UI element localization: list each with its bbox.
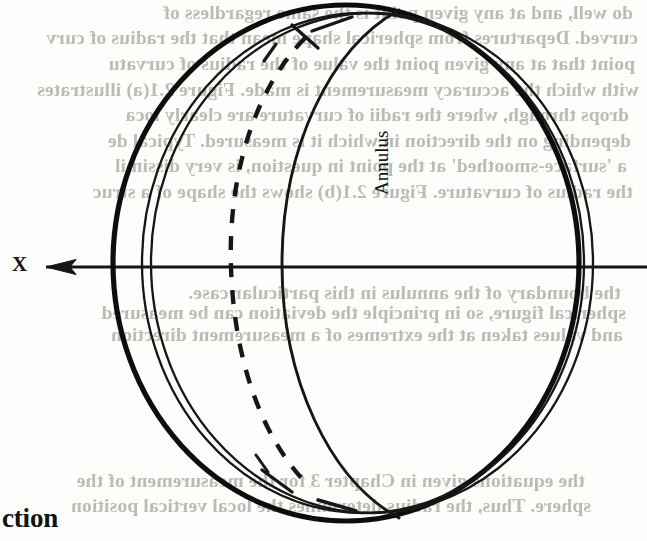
annulus-band <box>142 13 593 513</box>
sphere-annulus-figure <box>0 0 647 541</box>
annulus-label: Annulus <box>371 131 393 195</box>
sphere-outline <box>113 5 579 521</box>
x-axis-label: X <box>12 252 28 277</box>
annulus-hidden-rim-dashed <box>231 38 310 487</box>
section-heading-fragment: ction <box>2 503 58 534</box>
rim-crossing-ticks <box>256 17 356 511</box>
annulus-front-rim <box>282 10 399 518</box>
x-axis-line <box>46 260 647 275</box>
scanned-page: do well, and at any given point is the s… <box>0 0 647 541</box>
